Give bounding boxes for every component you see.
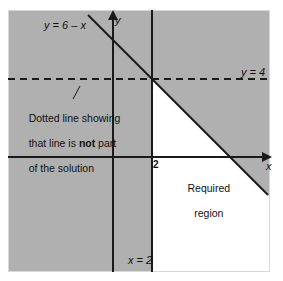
required-region-label: Required region	[169, 170, 237, 232]
label-y-equals-4: y = 4	[241, 66, 265, 79]
dotted-note-line-2-post: part	[95, 137, 116, 149]
dotted-note-line-2-pre: that line is	[29, 137, 79, 149]
x-axis-tick-label-2: 2	[153, 159, 159, 171]
required-region-line-1: Required	[188, 182, 231, 194]
y-axis-label: y	[115, 14, 121, 27]
dotted-note-emphasis: not	[79, 137, 95, 149]
label-line-equation: y = 6 – x	[44, 19, 86, 32]
dotted-line-note: Dotted line showing that line is not par…	[17, 100, 145, 187]
dotted-note-line-1: Dotted line showing	[29, 112, 121, 124]
x-axis-label: x	[266, 160, 272, 173]
dotted-note-line-3: of the solution	[29, 162, 94, 174]
graph-figure: y = 6 – x y = 4 x = 2 2 x y Dotted line …	[0, 0, 283, 281]
required-region-line-2: region	[194, 207, 223, 219]
label-x-equals-2: x = 2	[128, 254, 152, 267]
